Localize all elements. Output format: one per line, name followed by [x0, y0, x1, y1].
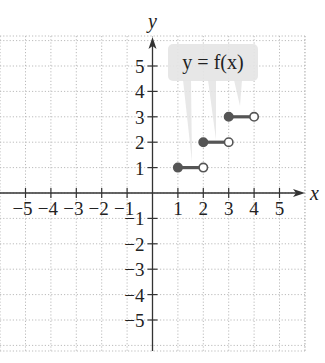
y-tick-label: 4: [135, 81, 145, 102]
y-tick-label: −3: [124, 259, 144, 280]
label-pointer: [234, 80, 242, 106]
label-pointer: [183, 80, 192, 162]
x-tick-label: −3: [63, 198, 83, 219]
open-dot: [250, 113, 258, 121]
y-tick-label: 5: [135, 56, 145, 77]
x-tick-label: 3: [224, 198, 234, 219]
y-tick-label: −5: [124, 310, 144, 331]
x-axis-label: x: [309, 182, 319, 204]
open-dot: [225, 138, 233, 146]
y-tick-label: −4: [124, 285, 145, 306]
y-tick-label: 3: [135, 107, 145, 128]
y-tick-label: −1: [124, 208, 144, 229]
axes: [0, 37, 305, 351]
closed-dot: [225, 113, 233, 121]
open-dot: [199, 163, 207, 171]
x-tick-label: −2: [89, 198, 109, 219]
label-pointer: [208, 80, 216, 140]
y-tick-label: 2: [135, 132, 145, 153]
closed-dot: [174, 163, 182, 171]
x-tick-label: 2: [199, 198, 209, 219]
x-tick-label: 1: [173, 198, 183, 219]
x-tick-label: 4: [249, 198, 259, 219]
step-function-graph: −5−4−3−2−11234554321−1−2−3−4−5 x y y = f…: [0, 0, 325, 363]
function-label: y = f(x): [182, 51, 243, 74]
x-tick-label: −5: [12, 198, 32, 219]
y-tick-label: −2: [124, 234, 144, 255]
y-tick-label: 1: [135, 158, 145, 179]
x-tick-label: −4: [38, 198, 59, 219]
y-axis-label: y: [146, 10, 157, 33]
x-tick-label: 5: [275, 198, 285, 219]
closed-dot: [199, 138, 207, 146]
